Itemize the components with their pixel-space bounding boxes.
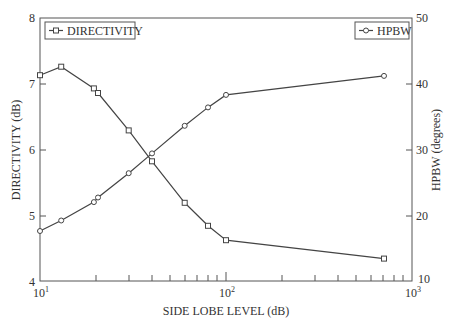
circle-marker-icon	[126, 171, 131, 176]
circle-marker-icon	[206, 105, 211, 110]
series-line	[40, 76, 384, 231]
circle-marker-icon	[59, 218, 64, 223]
circle-marker-icon	[150, 151, 155, 156]
x-axis-title: SIDE LOBE LEVEL (dB)	[163, 304, 290, 318]
series-line	[40, 67, 384, 259]
circle-marker-icon	[182, 123, 187, 128]
ytick-label: 8	[29, 11, 35, 25]
x-tick-labels: 101 102 103	[33, 285, 421, 300]
left-y-axis-title: DIRECTIVITY (dB)	[9, 100, 23, 201]
square-marker-icon	[54, 28, 59, 33]
square-marker-icon	[182, 200, 187, 205]
legend-label: HPBW	[377, 24, 412, 38]
square-marker-icon	[150, 159, 155, 164]
legend-hpbw: HPBW	[355, 22, 412, 39]
ytick-label: 7	[29, 77, 35, 91]
y2tick-label: 10	[418, 272, 430, 286]
x-ticks	[96, 272, 403, 281]
legend-label: DIRECTIVITY	[67, 24, 143, 38]
left-y-ticks	[40, 84, 46, 216]
xtick-label: 101	[33, 285, 49, 300]
square-marker-icon	[96, 91, 101, 96]
series-hpbw	[38, 73, 387, 233]
y2tick-label: 20	[416, 209, 428, 223]
circle-marker-icon	[382, 73, 387, 78]
square-marker-icon	[224, 238, 229, 243]
circle-marker-icon	[96, 195, 101, 200]
ytick-label: 6	[29, 143, 35, 157]
circle-marker-icon	[91, 200, 96, 205]
square-marker-icon	[126, 128, 131, 133]
square-marker-icon	[382, 256, 387, 261]
legend-directivity: DIRECTIVITY	[45, 22, 143, 39]
right-y-axis-title: HPBW (degrees)	[429, 109, 443, 191]
series-directivity	[38, 64, 387, 261]
y2tick-label: 40	[416, 77, 428, 91]
chart: 8 7 6 5 4 50 40 30 20 10 101	[0, 0, 451, 323]
xtick-label: 103	[405, 285, 421, 300]
y2tick-label: 30	[416, 143, 428, 157]
y2tick-label: 50	[416, 11, 428, 25]
right-y-tick-labels: 50 40 30 20 10	[416, 11, 430, 286]
circle-marker-icon	[364, 28, 369, 33]
ytick-label: 5	[29, 209, 35, 223]
square-marker-icon	[38, 73, 43, 78]
square-marker-icon	[206, 223, 211, 228]
circle-marker-icon	[38, 229, 43, 234]
right-y-ticks	[406, 84, 412, 216]
xtick-label: 102	[219, 285, 235, 300]
left-y-tick-labels: 8 7 6 5 4	[29, 11, 35, 289]
circle-marker-icon	[224, 92, 229, 97]
square-marker-icon	[59, 64, 64, 69]
